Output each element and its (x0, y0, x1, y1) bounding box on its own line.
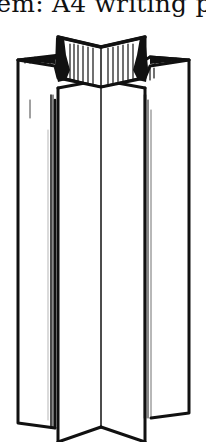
front-right-panel (101, 80, 145, 442)
front-left-panel (58, 80, 101, 442)
folded-paper-column-illustration (0, 0, 206, 442)
back-right-panel (145, 57, 189, 418)
back-left-panel (18, 55, 60, 428)
